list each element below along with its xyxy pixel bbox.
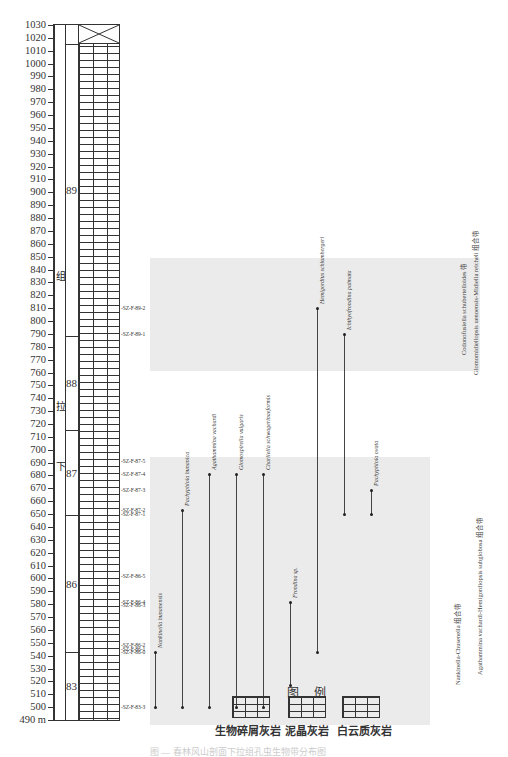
axis-tick-label: 890: [2, 200, 46, 210]
axis-tick-label: 790: [2, 329, 46, 339]
sample-label: -SZ-F-87-5: [121, 458, 145, 464]
covered-interval-box: [78, 24, 120, 44]
zone-label-codonofusiella: Codonofusiella schubertelloides 带: [458, 263, 468, 355]
axis-tick-label: 910: [2, 174, 46, 184]
taxon-range-line: [344, 334, 345, 514]
taxon-occurrence-dot: [154, 651, 157, 654]
legend-swatch-dolomitic: [342, 696, 380, 718]
axis-tick-label: 510: [2, 689, 46, 699]
axis-tick-label: 640: [2, 522, 46, 532]
axis-tick-label: 650: [2, 509, 46, 519]
sample-label: -SZ-F-89-1: [121, 331, 145, 337]
axis-tick-label: 780: [2, 342, 46, 352]
axis-tick-label: 660: [2, 496, 46, 506]
legend-label-dolomitic: 白云质灰岩: [337, 722, 392, 738]
taxon-range-line: [236, 474, 237, 707]
sample-label: -SZ-F-86-5: [121, 573, 145, 579]
axis-tick-label: 860: [2, 239, 46, 249]
taxon-name: Pachyphloia hunanica: [184, 452, 190, 506]
axis-tick-label: 960: [2, 110, 46, 120]
axis-tick-label: 630: [2, 535, 46, 545]
zone-label-agathammina: Agathammina vachardi-Hemigordiopsis subg…: [474, 517, 484, 675]
taxon-name: Ichthyofrondina palmata: [346, 270, 352, 330]
axis-tick-label: 520: [2, 676, 46, 686]
axis-tick-label: 880: [2, 213, 46, 223]
axis-tick-label: 720: [2, 419, 46, 429]
sample-label: -SZ-F-89-2: [121, 305, 145, 311]
bed-number: 83: [66, 680, 77, 692]
taxon-name: Hemigordius schlumbergeri: [319, 237, 325, 304]
lithology-column: [78, 24, 120, 721]
axis-tick-label: 1010: [2, 46, 46, 56]
axis-tick-label: 750: [2, 380, 46, 390]
axis-tick-label: 560: [2, 625, 46, 635]
legend-label-bioclastic: 生物碎屑灰岩: [215, 722, 281, 738]
axis-tick-label: 690: [2, 458, 46, 468]
axis-tick-label: 810: [2, 303, 46, 313]
axis-tick-label: 830: [2, 277, 46, 287]
taxon-occurrence-dot: [289, 601, 292, 604]
axis-tick-label: 550: [2, 638, 46, 648]
taxon-range-line: [371, 490, 372, 514]
bed-column: [65, 24, 79, 721]
sample-label: -SZ-F-87-2: [121, 507, 145, 513]
figure-caption: 图 — 春林风山剖面下拉组孔虫生物带分布图: [150, 745, 326, 757]
taxon-occurrence-dot: [370, 489, 373, 492]
taxon-name: Pachyphloia ovata: [373, 440, 379, 485]
axis-tick-label: 590: [2, 586, 46, 596]
taxon-range-line: [182, 510, 183, 707]
axis-tick-label: 610: [2, 561, 46, 571]
axis-tick-label: 490 m: [2, 715, 46, 725]
axis-tick-label: 900: [2, 187, 46, 197]
axis-tick-label: 600: [2, 573, 46, 583]
depth-axis: 490 m50051052053054055056057058059060061…: [0, 0, 60, 757]
zone-shade-upper: [150, 258, 480, 371]
axis-tick-label: 570: [2, 612, 46, 622]
zone-label-glomomidiellopsis: Glomomidiellopsis uenoensis-Midiella rei…: [470, 230, 480, 375]
taxon-name: Agathammina vachardi: [211, 414, 217, 470]
taxon-name: Charliella schwagerinaeformis: [265, 395, 271, 470]
legend-swatch-micritic: [288, 696, 326, 718]
bed-number: 88: [66, 377, 77, 389]
axis-tick-label: 580: [2, 599, 46, 609]
legend-label-micritic: 泥晶灰岩: [285, 722, 329, 738]
taxon-range-line: [317, 308, 318, 652]
sample-label: -SZ-F-87-3: [121, 487, 145, 493]
axis-tick-label: 950: [2, 123, 46, 133]
sample-label: -SZ-F-86-4: [121, 599, 145, 605]
axis-tick-label: 700: [2, 445, 46, 455]
axis-tick-label: 1000: [2, 59, 46, 69]
axis-tick-label: 620: [2, 548, 46, 558]
axis-tick-label: 930: [2, 149, 46, 159]
axis-tick-label: 770: [2, 355, 46, 365]
axis-tick-label: 530: [2, 664, 46, 674]
taxon-range-line: [209, 474, 210, 707]
axis-tick-label: 980: [2, 84, 46, 94]
bed-number: 89: [66, 184, 77, 196]
axis-tick-label: 730: [2, 406, 46, 416]
axis-tick-label: 500: [2, 702, 46, 712]
axis-tick-label: 920: [2, 162, 46, 172]
taxon-name: Glomospirella vulgaris: [238, 415, 244, 471]
axis-tick-label: 760: [2, 368, 46, 378]
bed-number: 87: [66, 467, 77, 479]
axis-tick-label: 1030: [2, 20, 46, 30]
taxon-name: Nankinella hunanensis: [157, 593, 163, 648]
sample-label: -SZ-F-83-3: [121, 704, 145, 710]
axis-tick-label: 1020: [2, 33, 46, 43]
axis-tick-label: 740: [2, 393, 46, 403]
axis-tick-label: 940: [2, 136, 46, 146]
axis-tick-label: 670: [2, 483, 46, 493]
taxon-range-line: [155, 652, 156, 707]
axis-tick-label: 680: [2, 470, 46, 480]
axis-tick-label: 870: [2, 226, 46, 236]
axis-tick-label: 840: [2, 265, 46, 275]
axis-tick-label: 710: [2, 432, 46, 442]
axis-tick-label: 990: [2, 71, 46, 81]
zone-label-nankinella: Nankinella-Chusenella 组合带: [452, 603, 462, 685]
axis-tick-label: 850: [2, 252, 46, 262]
axis-tick-label: 800: [2, 316, 46, 326]
legend-swatch-bioclastic: [232, 696, 270, 718]
axis-tick-label: 820: [2, 290, 46, 300]
taxon-occurrence-dot: [316, 651, 319, 654]
